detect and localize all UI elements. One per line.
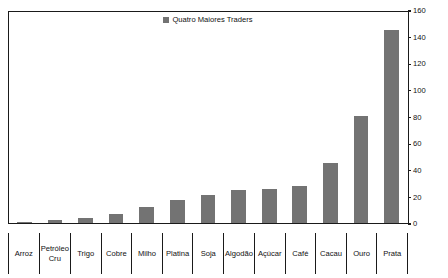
bar[interactable] xyxy=(109,214,124,223)
x-axis-category-cell[interactable]: Cacau xyxy=(316,233,347,274)
y-tick-mark xyxy=(408,144,411,145)
bar-slot xyxy=(70,11,101,223)
x-axis-category-cell[interactable]: Prata xyxy=(377,233,407,274)
x-axis-category-label: Trigo xyxy=(77,249,94,258)
bar-slot xyxy=(193,11,224,223)
y-tick-mark xyxy=(408,37,411,38)
bar[interactable] xyxy=(201,195,216,223)
x-axis-category-cell[interactable]: Café xyxy=(286,233,317,274)
bar[interactable] xyxy=(231,190,246,223)
x-axis-category-label: Platina xyxy=(166,249,189,258)
y-tick-mark xyxy=(408,117,411,118)
y-tick-label: 100 xyxy=(413,87,426,95)
bar[interactable] xyxy=(78,218,93,223)
x-axis-category-label: Cacau xyxy=(320,249,342,258)
x-axis-category-label: Cobre xyxy=(106,249,127,258)
y-tick-label: 160 xyxy=(413,7,426,15)
bar-slot xyxy=(315,11,346,223)
bar-slot xyxy=(101,11,132,223)
y-tick-label: 140 xyxy=(413,34,426,42)
bar[interactable] xyxy=(170,200,185,223)
x-axis-category-cell[interactable]: Milho xyxy=(132,233,163,274)
x-axis-category-label: Arroz xyxy=(15,249,33,258)
bar-slot xyxy=(346,11,377,223)
y-tick-mark xyxy=(408,223,411,224)
y-tick-label: 80 xyxy=(413,114,421,122)
bar[interactable] xyxy=(262,189,277,223)
y-tick-label: 60 xyxy=(413,140,421,148)
x-axis-category-label: Açúcar xyxy=(258,249,282,258)
x-axis-category-label: Milho xyxy=(138,249,156,258)
bar-slot xyxy=(223,11,254,223)
x-axis-category-cell[interactable]: Ouro xyxy=(347,233,378,274)
bar-slot xyxy=(9,11,40,223)
bar[interactable] xyxy=(139,207,154,223)
bar-slot xyxy=(131,11,162,223)
bar[interactable] xyxy=(354,116,369,223)
x-axis-category-label: Prata xyxy=(383,249,401,258)
x-axis-category-label: Café xyxy=(292,249,308,258)
bar-chart: Quatro Maiores Traders 02040608010012014… xyxy=(0,0,448,278)
x-axis-category-labels: ArrozPetróleo CruTrigoCobreMilhoPlatinaS… xyxy=(8,233,408,274)
x-axis-category-cell[interactable]: Arroz xyxy=(9,233,40,274)
x-axis-category-label: Ouro xyxy=(353,249,370,258)
bar-series-group xyxy=(9,11,407,223)
bar-slot xyxy=(254,11,285,223)
y-tick-mark xyxy=(408,90,411,91)
x-axis-category-cell[interactable]: Platina xyxy=(163,233,194,274)
y-tick-mark xyxy=(408,10,411,11)
x-axis-category-cell[interactable]: Soja xyxy=(193,233,224,274)
y-tick-mark xyxy=(408,64,411,65)
bar[interactable] xyxy=(384,30,399,223)
y-tick-label: 0 xyxy=(413,220,417,228)
bar-slot xyxy=(40,11,71,223)
bar[interactable] xyxy=(17,222,32,223)
x-axis-category-cell[interactable]: Algodão xyxy=(224,233,255,274)
x-axis-category-cell[interactable]: Petróleo Cru xyxy=(40,233,71,274)
bar[interactable] xyxy=(323,163,338,223)
y-tick-label: 20 xyxy=(413,194,421,202)
y-axis: 020406080100120140160 xyxy=(408,11,448,224)
bar-slot xyxy=(284,11,315,223)
x-axis-category-label: Soja xyxy=(201,249,216,258)
y-tick-mark xyxy=(408,197,411,198)
x-axis-category-cell[interactable]: Cobre xyxy=(102,233,133,274)
x-axis-category-label: Petróleo Cru xyxy=(41,244,69,263)
x-axis-category-cell[interactable]: Trigo xyxy=(71,233,102,274)
bar-slot xyxy=(162,11,193,223)
bar[interactable] xyxy=(292,186,307,223)
y-tick-mark xyxy=(408,170,411,171)
bar[interactable] xyxy=(48,220,63,223)
x-axis-category-label: Algodão xyxy=(225,249,253,258)
y-tick-label: 40 xyxy=(413,167,421,175)
bar-slot xyxy=(376,11,407,223)
x-axis-category-cell[interactable]: Açúcar xyxy=(255,233,286,274)
y-tick-label: 120 xyxy=(413,60,426,68)
